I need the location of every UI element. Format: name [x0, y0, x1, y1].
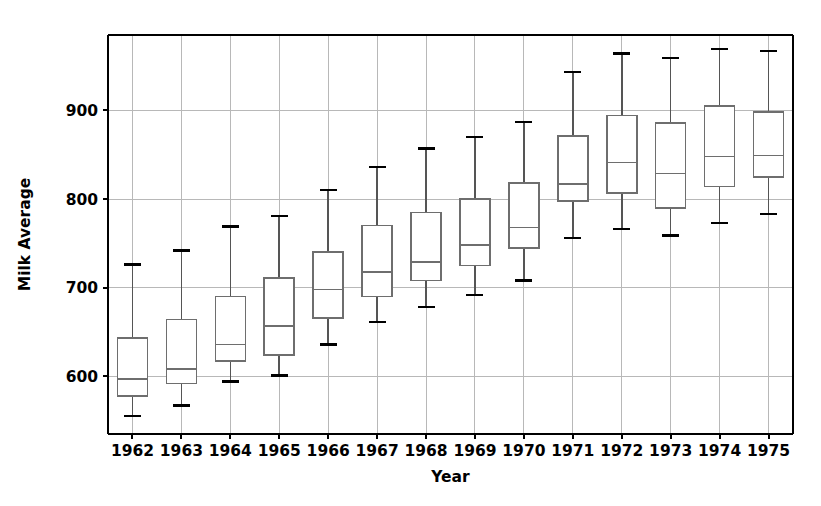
chart-figure: 6007008009001962196319641965196619671968… [0, 0, 821, 506]
box-1966 [313, 252, 343, 318]
xtick-label-1962: 1962 [111, 442, 154, 460]
ytick-label-700: 700 [66, 279, 99, 297]
xtick-label-1971: 1971 [551, 442, 594, 460]
box-1975 [754, 112, 784, 177]
xtick-label-1966: 1966 [307, 442, 350, 460]
xtick-label-1963: 1963 [160, 442, 203, 460]
box-1970 [509, 183, 539, 248]
box-1968 [411, 212, 441, 280]
box-1974 [705, 106, 735, 187]
xtick-label-1972: 1972 [600, 442, 643, 460]
xtick-label-1964: 1964 [209, 442, 252, 460]
xtick-label-1969: 1969 [453, 442, 496, 460]
y-axis-title: Milk Average [16, 178, 34, 292]
box-1962 [117, 338, 147, 396]
box-1965 [264, 278, 294, 355]
xtick-label-1967: 1967 [356, 442, 399, 460]
box-1963 [166, 320, 196, 384]
box-1967 [362, 226, 392, 297]
xtick-label-1970: 1970 [502, 442, 545, 460]
box-plot-svg: 6007008009001962196319641965196619671968… [0, 0, 821, 506]
box-1971 [558, 136, 588, 201]
ytick-label-900: 900 [66, 102, 99, 120]
ytick-label-600: 600 [66, 368, 99, 386]
box-1969 [460, 199, 490, 265]
box-1973 [656, 123, 686, 208]
x-axis-title: Year [430, 468, 470, 486]
box-1964 [215, 297, 245, 362]
box-1972 [607, 116, 637, 193]
ytick-label-800: 800 [66, 191, 99, 209]
xtick-label-1975: 1975 [747, 442, 790, 460]
xtick-label-1965: 1965 [258, 442, 301, 460]
xtick-label-1973: 1973 [649, 442, 692, 460]
xtick-label-1974: 1974 [698, 442, 741, 460]
xtick-label-1968: 1968 [404, 442, 447, 460]
